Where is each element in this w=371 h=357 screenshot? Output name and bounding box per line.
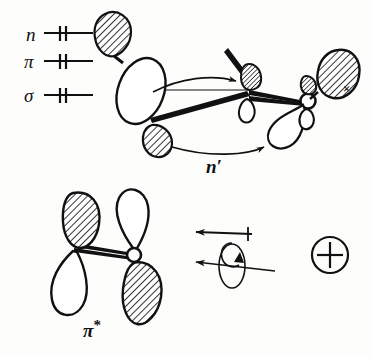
energy-level-pi: [44, 54, 93, 69]
pi-star-label: π*: [83, 318, 101, 340]
n-prime-label: n′: [206, 157, 222, 176]
oxygen-open-lobe-down: [299, 109, 313, 129]
upper-rotation-arrow: [196, 227, 252, 241]
rotation-arrow-group: [196, 227, 275, 288]
pi-star-orbital: [51, 189, 161, 324]
energy-label-pi: π: [24, 52, 34, 71]
transition-arrow-lower: [172, 147, 264, 154]
figure-canvas: n π σ n′ π* ×: [0, 0, 371, 357]
pistar-lower-left-lobe: [51, 251, 87, 315]
cross-mark-label: ×: [343, 82, 350, 95]
oxygen-small-hatched-lobe: [301, 76, 316, 94]
lower-left-hatched-lobe: [143, 125, 172, 157]
upper-spin-loop: [221, 243, 239, 267]
orbital-diagram-svg: [0, 0, 371, 357]
top-molecule: [94, 12, 359, 157]
energy-level-n: [44, 26, 93, 41]
circled-plus-symbol: [312, 237, 348, 273]
oxygen-large-hatched-lobe: [310, 50, 360, 99]
upper-left-hatched-lobe: [94, 12, 131, 63]
lower-rotation-arrow: [196, 262, 275, 271]
energy-label-sigma: σ: [24, 86, 33, 105]
pi-star-asterisk: *: [93, 317, 101, 333]
energy-label-n: n: [26, 25, 36, 44]
mid-hatched-lobe: [241, 64, 261, 90]
oxygen-open-lobe-left: [268, 105, 305, 148]
energy-level-sigma: [44, 88, 93, 103]
energy-level-diagram: [44, 26, 93, 103]
pistar-upper-right-lobe: [117, 189, 149, 250]
oxygen-atom-pistar: [127, 248, 141, 262]
mid-open-lobe: [239, 99, 255, 123]
pi-star-base: π: [83, 320, 93, 341]
pistar-lower-right-lobe: [123, 262, 162, 324]
pistar-upper-left-lobe: [63, 193, 100, 248]
